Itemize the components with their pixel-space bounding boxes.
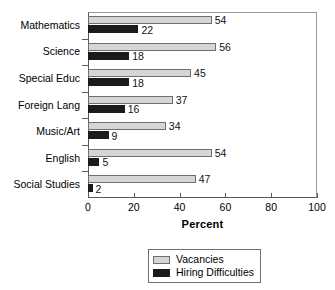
- bar-value-vacancies: 34: [169, 121, 181, 132]
- chart-legend: VacanciesHiring Difficulties: [148, 249, 261, 283]
- x-axis-tick-label: 100: [308, 202, 326, 213]
- bar-group: 4518: [88, 65, 317, 92]
- bar-value-vacancies: 54: [215, 148, 227, 159]
- bar-hiring-difficulties: [88, 52, 129, 60]
- bar-value-vacancies: 45: [194, 68, 206, 79]
- bar-vacancies: [88, 69, 191, 77]
- bar-hiring-difficulties: [88, 158, 99, 166]
- bar-value-vacancies: 37: [176, 95, 188, 106]
- bar-hiring-difficulties: [88, 105, 125, 113]
- category-label: Music/Art: [36, 126, 80, 137]
- x-axis-tick-label: 80: [265, 202, 277, 213]
- legend-item: Vacancies: [153, 253, 254, 266]
- bar-group: 5422: [88, 12, 317, 39]
- x-axis-tick: [271, 193, 272, 198]
- bar-value-hiring-difficulties: 18: [132, 51, 144, 62]
- category-label: Mathematics: [20, 20, 80, 31]
- bar-value-hiring-difficulties: 5: [102, 157, 108, 168]
- x-axis-tick: [225, 193, 226, 198]
- category-label: English: [46, 153, 80, 164]
- bar-vacancies: [88, 16, 212, 24]
- x-axis-tick: [134, 193, 135, 198]
- bar-value-hiring-difficulties: 22: [141, 25, 153, 36]
- legend-label: Vacancies: [176, 254, 224, 265]
- bar-group: 5618: [88, 39, 317, 66]
- bar-value-hiring-difficulties: 9: [112, 131, 118, 142]
- x-axis-tick-label: 60: [220, 202, 232, 213]
- bar-hiring-difficulties: [88, 78, 129, 86]
- horizontal-bar-chart: MathematicsScienceSpecial EducForeign La…: [0, 0, 335, 290]
- bar-value-hiring-difficulties: 18: [132, 78, 144, 89]
- bar-value-vacancies: 47: [199, 174, 211, 185]
- x-axis-tick-label: 40: [174, 202, 186, 213]
- category-axis-labels: MathematicsScienceSpecial EducForeign La…: [0, 12, 84, 198]
- bar-group: 349: [88, 118, 317, 145]
- legend-label: Hiring Difficulties: [176, 267, 254, 278]
- x-axis-tick: [180, 193, 181, 198]
- bar-group: 545: [88, 145, 317, 172]
- bar-vacancies: [88, 43, 216, 51]
- bar-group: 3716: [88, 92, 317, 119]
- bar-group: 472: [88, 171, 317, 198]
- legend-swatch-hiring-icon: [153, 269, 170, 277]
- x-axis-tick-label: 20: [128, 202, 140, 213]
- x-axis-tick-label: 0: [85, 202, 91, 213]
- legend-swatch-vacancies-icon: [153, 256, 170, 264]
- category-label: Science: [43, 46, 80, 57]
- bar-hiring-difficulties: [88, 25, 138, 33]
- category-label: Social Studies: [13, 179, 80, 190]
- bar-hiring-difficulties: [88, 131, 109, 139]
- category-label: Special Educ: [19, 73, 80, 84]
- legend-item: Hiring Difficulties: [153, 266, 254, 279]
- bar-value-hiring-difficulties: 2: [96, 184, 102, 195]
- x-axis-title: Percent: [88, 218, 317, 230]
- bar-value-hiring-difficulties: 16: [128, 104, 140, 115]
- category-label: Foreign Lang: [18, 100, 80, 111]
- bar-hiring-difficulties: [88, 184, 93, 192]
- bar-value-vacancies: 54: [215, 15, 227, 26]
- bar-vacancies: [88, 122, 166, 130]
- x-axis-ticks: [88, 198, 317, 203]
- x-axis-tick: [317, 193, 318, 198]
- bar-value-vacancies: 56: [219, 42, 231, 53]
- x-axis-tick: [88, 193, 89, 198]
- bar-rows: 5422561845183716349545472: [88, 12, 317, 198]
- bar-vacancies: [88, 175, 196, 183]
